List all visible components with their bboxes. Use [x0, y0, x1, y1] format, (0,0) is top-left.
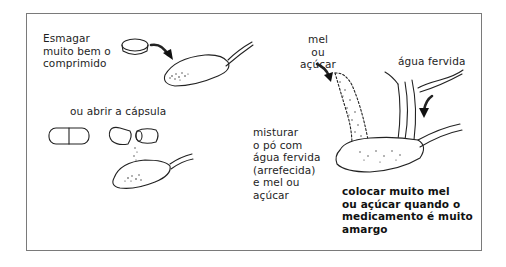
curved-arrow-icon: [419, 96, 432, 118]
powder-stream-icon: [335, 73, 368, 145]
open-capsule-label: ou abrir a cápsula: [70, 105, 166, 118]
bitter-medicine-note: colocar muito mel ou açúcar quando o med…: [342, 185, 473, 235]
tablet-icon: [122, 39, 148, 55]
spoon-icon: [113, 154, 193, 188]
curved-arrow-icon: [151, 45, 173, 60]
water-stream-icon: [385, 70, 463, 140]
boiled-water-label: água fervida: [398, 55, 465, 68]
open-capsule-icon: [109, 127, 158, 144]
crush-tablet-label: Esmagar muito bem o comprimido: [43, 32, 111, 70]
spoon-icon: [164, 42, 253, 86]
capsule-icon: [49, 128, 89, 144]
sweetener-label: mel ou açúcar: [300, 33, 336, 71]
mix-instructions-label: misturar o pó com água fervida (arrefeci…: [253, 126, 320, 201]
